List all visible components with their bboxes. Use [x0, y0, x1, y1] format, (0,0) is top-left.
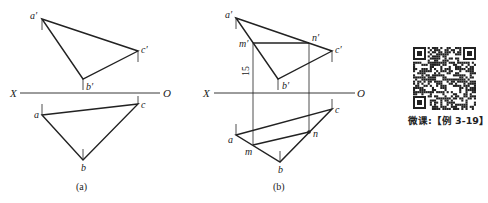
qr-code[interactable]: [412, 46, 477, 110]
axis-label-o: O: [357, 87, 365, 99]
projection-diagram: X O a′ c′ b′ a c b (a) X O a′ n: [0, 0, 488, 203]
label-b-prime: b′: [282, 80, 290, 91]
label-n-prime: n′: [312, 32, 320, 43]
line-mn: [253, 132, 309, 145]
axis-label-x: X: [9, 87, 18, 99]
label-c-prime: c′: [141, 44, 148, 55]
label-c: c: [335, 104, 340, 115]
top-triangle-a: [42, 104, 138, 160]
qr-caption: 微课:【例 3-19】: [408, 113, 488, 127]
label-n: n: [313, 128, 318, 139]
label-b: b: [81, 162, 86, 173]
figure-b-labels: X O a′ n′ c′ m′ b′ a c n m b (b) 15: [202, 9, 365, 193]
label-b: b: [278, 164, 283, 175]
label-c-prime: c′: [335, 44, 342, 55]
caption-a: (a): [76, 181, 87, 193]
label-a: a: [228, 134, 233, 145]
dimension-15: 15: [240, 66, 251, 76]
label-m: m: [245, 146, 252, 157]
label-b-prime: b′: [86, 81, 94, 92]
label-a-prime: a′: [30, 10, 38, 21]
front-triangle-a: [42, 19, 138, 79]
axis-label-o: O: [163, 87, 171, 99]
point-n: [307, 130, 311, 134]
axis-label-x: X: [202, 87, 211, 99]
label-m-prime: m′: [239, 38, 249, 49]
figure-a-labels: X O a′ c′ b′ a c b (a): [9, 10, 171, 193]
caption-b: (b): [273, 181, 285, 193]
label-c: c: [141, 99, 146, 110]
label-a: a: [34, 109, 39, 120]
label-a-prime: a′: [225, 9, 233, 20]
